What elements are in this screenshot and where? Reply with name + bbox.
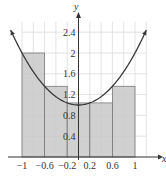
y-tick-label: 1.2 xyxy=(63,89,76,100)
riemann-bar xyxy=(90,103,113,157)
y-tick-label: 2 xyxy=(71,48,76,59)
y-tick-label: 2.4 xyxy=(63,27,76,38)
x-tick-label: 0.6 xyxy=(106,160,119,171)
y-tick-label: 0.8 xyxy=(63,110,76,121)
riemann-sum-chart: −1−0.6−0.20.20.610.40.81.21.622.4 y x xyxy=(0,0,166,178)
x-tick-label: −0.2 xyxy=(58,160,76,171)
y-tick-label: 1.6 xyxy=(63,68,76,79)
y-tick-label: 0.4 xyxy=(63,131,76,142)
x-tick-label: −1 xyxy=(17,160,28,171)
riemann-bar xyxy=(112,86,135,157)
x-tick-label: −0.6 xyxy=(36,160,54,171)
x-tick-label: 1 xyxy=(133,160,138,171)
y-axis-arrow-icon xyxy=(76,12,81,18)
x-tick-label: 0.2 xyxy=(84,160,97,171)
riemann-bar xyxy=(22,53,45,157)
x-axis-label: x xyxy=(161,153,166,164)
y-axis-label: y xyxy=(73,1,79,12)
